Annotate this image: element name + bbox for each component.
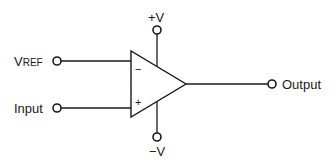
input-label: Input <box>14 101 43 116</box>
neg-supply-label: −V <box>149 144 166 159</box>
pos-supply-label: +V <box>148 10 165 25</box>
vref-label: VREF <box>14 54 43 69</box>
op-amp-diagram: VREF Input − + +V −V Output <box>0 0 332 163</box>
output-terminal <box>268 80 276 88</box>
pos-supply-terminal <box>153 26 161 34</box>
input-terminal <box>53 104 61 112</box>
noninverting-input-sign: + <box>135 96 141 108</box>
vref-terminal <box>53 57 61 65</box>
neg-supply-terminal <box>153 133 161 141</box>
output-label: Output <box>282 77 321 92</box>
inverting-input-sign: − <box>135 63 141 75</box>
